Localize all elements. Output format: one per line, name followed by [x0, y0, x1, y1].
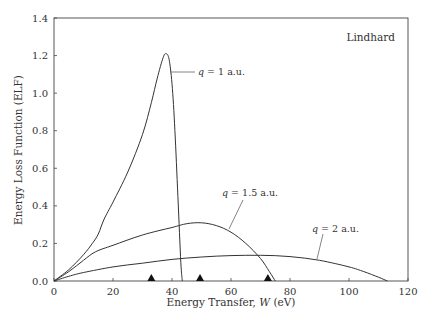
triangle-marker	[264, 274, 272, 281]
triangle-marker	[196, 274, 204, 281]
triangle-markers	[147, 274, 272, 281]
annotation-q2: q = 2 a.u.	[312, 223, 359, 259]
chart-svg: 0.00.20.40.60.81.01.21.4 020406080100120…	[0, 0, 432, 329]
y-tick-label: 0.2	[32, 238, 48, 249]
elf-chart: 0.00.20.40.60.81.01.21.4 020406080100120…	[0, 0, 432, 329]
y-tick-label: 1.4	[32, 13, 48, 24]
x-tick-label: 100	[339, 286, 358, 297]
series-line-1	[54, 54, 182, 281]
triangle-marker	[147, 274, 155, 281]
y-tick-label: 1.2	[32, 50, 48, 61]
x-axis-label-prefix: Energy Transfer,	[167, 296, 260, 308]
leader-line-q2	[317, 234, 323, 259]
y-axis-ticks: 0.00.20.40.60.81.01.21.4	[32, 13, 57, 287]
y-tick-label: 0.8	[32, 125, 48, 136]
y-tick-label: 1.0	[32, 88, 48, 99]
x-axis-label-unit: (eV)	[270, 296, 295, 308]
label-q2: q = 2 a.u.	[312, 223, 359, 234]
x-tick-label: 120	[398, 286, 417, 297]
label-q1: q = 1 a.u.	[198, 66, 245, 77]
x-tick-label: 20	[107, 286, 120, 297]
inset-label-lindhard: Lindhard	[346, 31, 395, 43]
annotation-q15: q = 1.5 a.u.	[222, 187, 278, 229]
leader-line-q15	[229, 200, 243, 229]
series-line-3	[54, 255, 387, 281]
x-tick-label: 0	[51, 286, 57, 297]
series-layer	[54, 54, 387, 281]
label-q15: q = 1.5 a.u.	[222, 187, 278, 198]
y-tick-label: 0.6	[32, 163, 48, 174]
y-tick-label: 0.4	[32, 200, 48, 211]
y-axis-label: Energy Loss Function (ELF)	[12, 75, 24, 225]
x-axis-label: Energy Transfer, W (eV)	[167, 296, 296, 308]
annotation-q1: q = 1 a.u.	[170, 66, 245, 77]
y-tick-label: 0.0	[32, 276, 48, 287]
plot-frame	[54, 18, 408, 281]
